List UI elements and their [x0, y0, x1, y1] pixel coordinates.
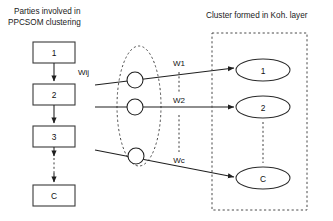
cluster-node-c[interactable]: C — [236, 167, 290, 189]
neuron-circle-1[interactable] — [127, 72, 143, 88]
cluster-node-1[interactable]: 1 — [236, 59, 290, 81]
party-box-c-label: C — [51, 191, 57, 201]
neuron-circle-3[interactable] — [128, 148, 144, 164]
left-title-line1: Parties involved in — [14, 7, 81, 16]
weight-line-wc — [95, 150, 234, 177]
left-title-line2: PPCSOM clustering — [8, 18, 81, 27]
weight-line-w1 — [95, 68, 234, 85]
cluster-node-1-label: 1 — [261, 66, 266, 76]
party-box-1[interactable]: 1 — [33, 42, 75, 63]
party-box-c[interactable]: C — [33, 185, 75, 206]
cluster-node-c-label: C — [260, 174, 266, 184]
weight-label-w2: W2 — [173, 96, 186, 105]
chain-weight-label: Wij — [78, 68, 89, 77]
party-box-2-label: 2 — [52, 90, 57, 100]
diagram-canvas: Parties involved in PPCSOM clustering Cl… — [0, 0, 333, 221]
neuron-circle-2[interactable] — [127, 99, 143, 115]
weight-label-w1: W1 — [173, 59, 186, 68]
cluster-node-2[interactable]: 2 — [236, 96, 290, 118]
right-title: Cluster formed in Koh. layer — [206, 11, 308, 20]
party-box-2[interactable]: 2 — [33, 84, 75, 105]
weight-label-wc: Wc — [173, 156, 185, 165]
party-box-3[interactable]: 3 — [33, 126, 75, 147]
cluster-node-2-label: 2 — [261, 103, 266, 113]
party-box-3-label: 3 — [52, 132, 57, 142]
party-box-1-label: 1 — [52, 48, 57, 58]
